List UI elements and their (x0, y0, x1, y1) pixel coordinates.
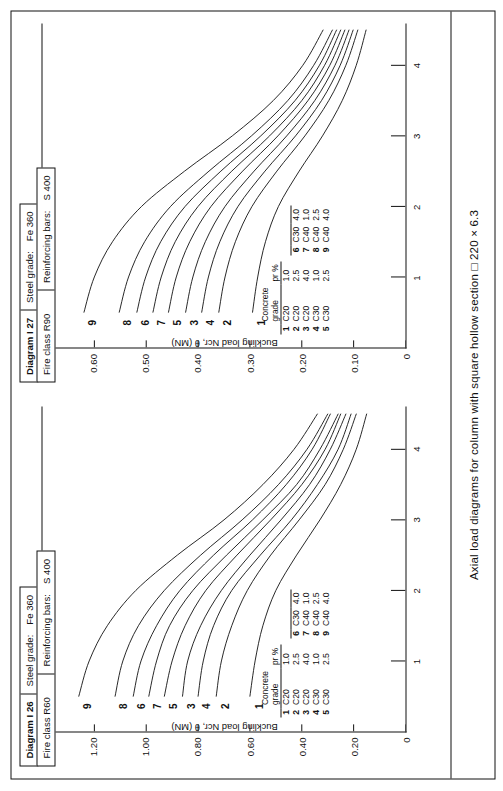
y-tick-label: 1.20 (88, 737, 99, 756)
legend-pr: 4.0 (321, 589, 331, 607)
legend-grade: C30 (321, 668, 331, 708)
y-tick-label: 0.80 (192, 737, 203, 756)
fire-class-label-i26: Fire class R60 (37, 673, 54, 765)
legend-row: 7C401.0 (301, 589, 311, 639)
legend-index: 4 (311, 708, 321, 718)
curve-label: 2 (222, 319, 233, 325)
legend-col-grade: Concretegrade (260, 668, 281, 708)
legend-pr: 1.0 (311, 644, 321, 667)
legend-col-pr: pr % (260, 261, 281, 284)
legend-table: 6C304.07C401.08C402.59C404.0 (289, 589, 331, 639)
legend-pr: 2.5 (311, 205, 321, 223)
legend-row: 5C302.5 (321, 644, 331, 717)
legend-table: 6C304.07C401.08C402.59C404.0 (289, 205, 331, 255)
x-axis-ticks-i27: 1234 (410, 23, 428, 349)
steel-grade-cell-i26: Steel grade: Fe 360 (20, 587, 37, 693)
curve-label: 8 (118, 703, 129, 709)
y-tick-label: 1.00 (140, 737, 151, 756)
legend-pr: 4.0 (301, 644, 311, 667)
legend-pr: 4.0 (321, 205, 331, 223)
legend-pr: 4.0 (291, 205, 301, 223)
y-tick-label: 0.50 (140, 354, 151, 373)
legend-row: 6C304.0 (291, 589, 301, 639)
legend-index: 5 (321, 324, 331, 334)
legend-row: 9C404.0 (321, 589, 331, 639)
y-axis-ticks-i26: 1.401.201.000.800.600.400.200 (41, 732, 406, 778)
x-tick-label: 4 (410, 62, 421, 67)
legend-row: 1C201.0 (281, 644, 291, 717)
legend-pr: 2.5 (321, 261, 331, 284)
legend-grade: C20 (281, 284, 291, 324)
curve-label: 3 (188, 319, 199, 325)
fire-class-label-i27: Fire class R90 (37, 290, 54, 382)
page-frame: Diagram I 26 Steel grade: Fe 360 Fire cl… (10, 10, 495, 779)
legend-grade: C40 (301, 607, 311, 629)
steel-grade-value-i27: Fe 360 (23, 211, 34, 251)
legend-grade: C40 (321, 607, 331, 629)
reinforcing-bars-cell-i26: Reinforcing bars: S 400 (37, 551, 54, 673)
legend-grade: C30 (311, 668, 321, 708)
plot-area-i26 (41, 407, 406, 733)
panel-header-i26: Diagram I 26 Steel grade: Fe 360 (19, 586, 38, 766)
legend-col-index (260, 708, 281, 718)
steel-grade-label-i27: Steel grade: (23, 251, 34, 303)
y-tick-label: 0.30 (244, 354, 255, 373)
panel-header2-i27: Fire class R90 Reinforcing bars: S 400 (36, 167, 55, 383)
legend-row: 8C402.5 (311, 589, 321, 639)
curve-label: 3 (185, 703, 196, 709)
curve-label: 1 (256, 319, 267, 325)
y-tick-label: 0.20 (348, 737, 359, 756)
x-tick-label: 2 (410, 588, 421, 593)
curves-i26 (42, 407, 405, 732)
reinforcing-bars-label-i27: Reinforcing bars: (40, 210, 51, 283)
reinforcing-bars-cell-i27: Reinforcing bars: S 400 (37, 168, 54, 290)
legend-index: 7 (301, 245, 311, 255)
y-tick-label: 0.40 (296, 737, 307, 756)
legend-row: 5C302.5 (321, 261, 331, 334)
legend-grade: C20 (301, 668, 311, 708)
legend-grade: C20 (301, 284, 311, 324)
legend-grade: C40 (311, 223, 321, 245)
x-axis-ticks-i26: 1234 (410, 406, 428, 732)
diagram-label-i27: Diagram I 27 (20, 309, 37, 381)
legend-grade: C20 (281, 668, 291, 708)
y-axis-title-i26: Buckling load Ncr, θ (MN) (170, 721, 276, 732)
curve-label: 6 (139, 319, 150, 325)
legend-grade: C30 (321, 284, 331, 324)
legend-index: 6 (291, 629, 301, 639)
legend-pr: 1.0 (301, 205, 311, 223)
curves-i27 (42, 23, 405, 348)
legend-group-right: 6C304.07C401.08C402.59C404.0 (289, 589, 331, 639)
legend-row: 9C404.0 (321, 205, 331, 255)
diagram-label-i26: Diagram I 26 (20, 693, 37, 765)
diagram-panel-i27: Diagram I 27 Steel grade: Fe 360 Fire cl… (11, 11, 450, 395)
legend-i26: Concretegradepr %1C201.02C202.53C204.04C… (260, 589, 331, 718)
legend-index: 3 (301, 324, 311, 334)
legend-grade: C30 (311, 284, 321, 324)
legend-index: 9 (321, 245, 331, 255)
plot-area-i27 (41, 23, 406, 349)
legend-row: 3C204.0 (301, 261, 311, 334)
scanned-page: Diagram I 26 Steel grade: Fe 360 Fire cl… (0, 0, 503, 791)
legend-group-left: Concretegradepr %1C201.02C202.53C204.04C… (260, 261, 331, 334)
legend-grade: C40 (321, 223, 331, 245)
legend-index: 3 (301, 708, 311, 718)
legend-index: 8 (311, 245, 321, 255)
curve-label: 8 (122, 319, 133, 325)
curve-label: 5 (167, 703, 178, 709)
legend-row: 1C201.0 (281, 261, 291, 334)
steel-grade-value-i26: Fe 360 (23, 594, 34, 634)
legend-row: 3C204.0 (301, 644, 311, 717)
reinforcing-bars-label-i26: Reinforcing bars: (40, 593, 51, 666)
legend-col-index (260, 324, 281, 334)
legend-pr: 1.0 (281, 261, 291, 284)
y-axis-title-i27: Buckling load Ncr, θ (MN) (170, 338, 276, 349)
curve-label: 5 (171, 319, 182, 325)
legend-row: 6C304.0 (291, 205, 301, 255)
curve-label: 7 (151, 703, 162, 709)
legend-index: 6 (291, 245, 301, 255)
steel-grade-cell-i27: Steel grade: Fe 360 (20, 204, 37, 310)
legend-index: 1 (281, 708, 291, 718)
legend-table: Concretegradepr %1C201.02C202.53C204.04C… (260, 644, 331, 717)
legend-index: 5 (321, 708, 331, 718)
